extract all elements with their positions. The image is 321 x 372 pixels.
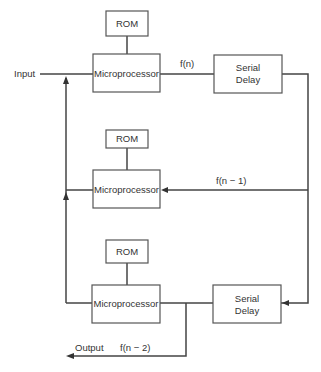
fn-minus-1-label: f(n − 1) [216,175,246,186]
left-bus-arrow-mid-icon [63,192,69,200]
microprocessor-box-2: Microprocessor [93,170,160,208]
left-bus-arrow-top-icon [63,76,69,84]
block-diagram: ROM Microprocessor Serial Delay ROM Micr… [0,0,321,372]
rom-box-2: ROM [106,130,148,148]
serial-delay-label-line2: Delay [236,74,261,85]
delay2-input-arrow-icon [282,300,289,306]
rom-label: ROM [116,18,138,29]
rom-box-1: ROM [106,11,148,36]
serial-delay-label-line1: Serial [236,62,260,73]
output-arrow-icon [66,353,74,359]
rom-label: ROM [116,133,138,144]
fn-label: f(n) [180,58,194,69]
output-label: Output [75,342,104,353]
microprocessor-box-3: Microprocessor [92,285,160,323]
serial-delay-box-2: Serial Delay [213,285,281,323]
serial-delay-box-1: Serial Delay [214,55,282,93]
serial-delay-label-line1: Serial [235,293,259,304]
fn-minus-2-label: f(n − 2) [120,342,150,353]
rom-label: ROM [116,246,138,257]
rom-box-3: ROM [106,240,148,263]
right-bus-wire [281,74,308,303]
microprocessor-label: Microprocessor [94,298,159,309]
microprocessor-box-1: Microprocessor [93,54,160,92]
input-label: Input [14,68,35,79]
microprocessor-label: Microprocessor [94,68,159,79]
microprocessor-label: Microprocessor [94,184,159,195]
serial-delay-label-line2: Delay [235,305,260,316]
fn-minus-1-arrow-icon [161,187,168,193]
